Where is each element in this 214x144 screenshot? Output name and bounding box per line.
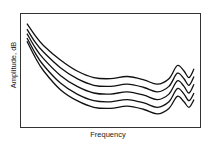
curves-group <box>27 24 194 114</box>
series-line-5 <box>27 41 194 114</box>
chart: Frequency Amplitude, dB <box>0 0 214 144</box>
x-axis-label: Frequency <box>90 130 126 139</box>
series-line-4 <box>27 38 194 107</box>
series-line-3 <box>27 34 194 100</box>
series-line-2 <box>27 29 194 92</box>
y-axis-label: Amplitude, dB <box>9 42 18 89</box>
